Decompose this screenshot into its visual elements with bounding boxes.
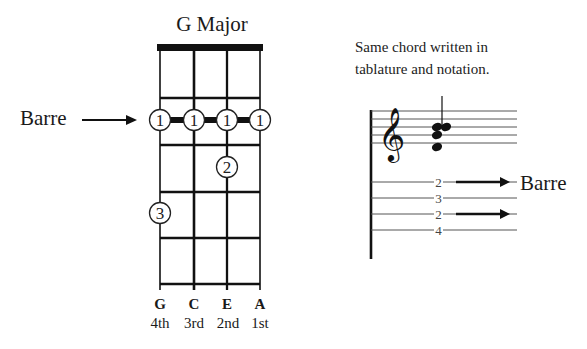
finger-marker-g-1: 1 <box>150 110 171 131</box>
tab-number-string-1: 2 <box>435 175 442 190</box>
barre-bar <box>160 117 260 123</box>
svg-text:1: 1 <box>223 111 232 130</box>
finger-marker-e-2: 2 <box>217 157 238 178</box>
nut <box>157 44 263 51</box>
string-number-4th: 4th <box>143 315 177 332</box>
string-number-3rd: 3rd <box>177 315 211 332</box>
staff-system: 𝄞 2 3 2 4 <box>371 96 517 259</box>
string-name-c: C <box>179 296 209 313</box>
string-name-e: E <box>212 296 242 313</box>
tab-number-string-2: 3 <box>435 191 442 206</box>
fretboard: 1 1 1 1 2 3 <box>150 44 271 290</box>
diagram-graphics: 1 1 1 1 2 3 <box>0 0 587 349</box>
finger-markers: 1 1 1 1 2 3 <box>150 110 271 224</box>
string-name-g: G <box>145 296 175 313</box>
finger-marker-g-3: 3 <box>150 203 171 224</box>
finger-marker-e-1: 1 <box>217 110 238 131</box>
string-name-a: A <box>245 296 275 313</box>
tab-arrow-icon-top <box>456 177 510 187</box>
svg-text:1: 1 <box>190 111 199 130</box>
tab-arrow-icon-bottom <box>456 209 510 219</box>
svg-text:1: 1 <box>156 111 165 130</box>
string-number-2nd: 2nd <box>211 315 245 332</box>
finger-marker-a-1: 1 <box>250 110 271 131</box>
arrow-icon <box>82 115 137 125</box>
tab-number-string-3: 2 <box>435 207 442 222</box>
string-number-1st: 1st <box>243 315 277 332</box>
tab-staff-lines <box>371 182 517 230</box>
svg-text:2: 2 <box>223 158 232 177</box>
tab-number-string-4: 4 <box>435 223 442 238</box>
svg-text:3: 3 <box>156 204 165 223</box>
treble-clef-icon: 𝄞 <box>378 107 405 163</box>
chord-notes <box>431 96 453 153</box>
strings <box>160 50 260 290</box>
tab-numbers: 2 3 2 4 <box>435 175 442 238</box>
svg-text:1: 1 <box>256 111 265 130</box>
fret-lines <box>160 98 260 284</box>
finger-marker-c-1: 1 <box>184 110 205 131</box>
